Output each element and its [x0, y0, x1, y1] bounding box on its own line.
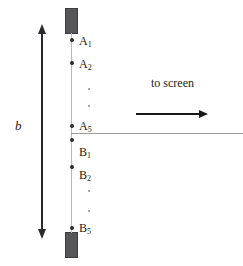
optics-multislit-diagram: A1 A2 A5 B1 B2 B5 to screen b: [0, 0, 243, 266]
slit-label-a5-letter: A: [79, 119, 88, 133]
slit-marker-a1: [70, 38, 74, 42]
slit-marker-a5: [70, 124, 74, 128]
optical-axis-line: [71, 133, 243, 134]
slit-label-a2-letter: A: [79, 57, 88, 71]
aperture-width-label: b: [15, 118, 22, 134]
slit-label-b2-index: 2: [87, 174, 91, 183]
slit-label-a2-index: 2: [88, 63, 92, 72]
top-blocking-bar: [65, 8, 78, 34]
ellipsis-dot-b-1: [88, 190, 90, 192]
slit-label-a1-letter: A: [79, 34, 88, 48]
slit-label-b1-letter: B: [79, 145, 87, 159]
to-screen-label: to screen: [151, 76, 194, 91]
to-screen-arrow-icon: [136, 113, 200, 115]
slit-marker-b1: [70, 138, 74, 142]
slit-label-b1-index: 1: [87, 151, 91, 160]
ellipsis-dot-b-2: [88, 210, 90, 212]
slit-marker-b2: [70, 165, 74, 169]
ellipsis-dot-a-2: [88, 105, 90, 107]
slit-label-a2: A2: [79, 58, 92, 70]
slit-marker-b5: [70, 226, 74, 230]
slit-label-b5-letter: B: [79, 221, 87, 235]
aperture-width-arrow-icon: [41, 33, 43, 230]
slit-label-a1-index: 1: [88, 40, 92, 49]
slit-label-b5: B5: [79, 222, 91, 234]
slit-label-a1: A1: [79, 35, 92, 47]
slit-label-b2-letter: B: [79, 168, 87, 182]
bottom-blocking-bar: [65, 232, 78, 258]
ellipsis-dot-a-1: [88, 88, 90, 90]
slit-marker-a2: [70, 61, 74, 65]
slit-label-b1: B1: [79, 146, 91, 158]
slit-label-a5: A5: [79, 120, 92, 132]
slit-label-b5-index: 5: [87, 227, 91, 236]
slit-label-b2: B2: [79, 169, 91, 181]
